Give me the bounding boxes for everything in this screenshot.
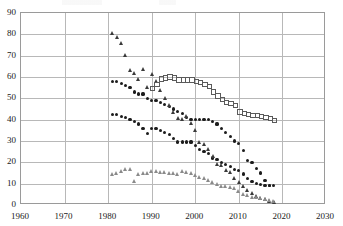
y-tick-label: 30 bbox=[0, 136, 16, 145]
y-tick-label: 0 bbox=[0, 200, 16, 209]
x-tick-label: 1980 bbox=[91, 212, 123, 221]
plot-area bbox=[20, 12, 325, 204]
series-5-open-triangle bbox=[21, 13, 324, 203]
data-point bbox=[132, 179, 136, 183]
data-point bbox=[271, 199, 275, 203]
x-tick-label: 2010 bbox=[222, 212, 254, 221]
data-point bbox=[128, 167, 132, 171]
y-tick-label: 90 bbox=[0, 8, 16, 17]
x-tick-label: 1960 bbox=[4, 212, 36, 221]
y-tick-label: 10 bbox=[0, 179, 16, 188]
x-tick-label: 2030 bbox=[309, 212, 341, 221]
y-tick-label: 60 bbox=[0, 72, 16, 81]
y-tick-label: 50 bbox=[0, 93, 16, 102]
scatter-chart: 0102030405060708090 19601970198019902000… bbox=[0, 0, 343, 226]
y-tick-label: 20 bbox=[0, 157, 16, 166]
y-tick-label: 40 bbox=[0, 115, 16, 124]
x-tick-label: 1970 bbox=[48, 212, 80, 221]
y-tick-label: 80 bbox=[0, 29, 16, 38]
x-tick-label: 2020 bbox=[265, 212, 297, 221]
y-tick-label: 70 bbox=[0, 51, 16, 60]
x-tick-label: 1990 bbox=[135, 212, 167, 221]
x-tick-label: 2000 bbox=[178, 212, 210, 221]
cropped-title-artifact bbox=[62, 0, 282, 5]
